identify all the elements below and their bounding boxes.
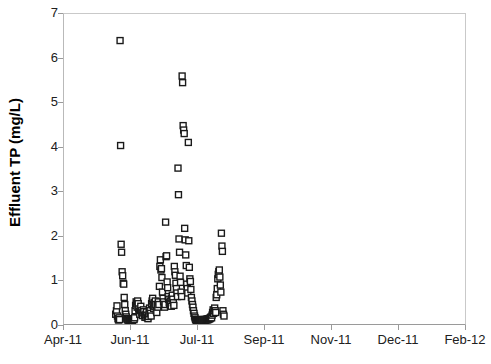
y-axis-tick-label: 0 [38, 318, 58, 331]
plot-area [63, 13, 466, 325]
y-axis-tick-mark [58, 58, 63, 59]
data-point-marker [179, 73, 185, 79]
x-axis-tick-mark [130, 325, 131, 330]
data-point-marker [181, 131, 187, 137]
data-point-marker [182, 225, 188, 231]
x-axis-tick-mark [465, 325, 466, 330]
data-point-marker [121, 294, 127, 300]
data-point-marker [114, 303, 120, 309]
data-point-marker [163, 219, 169, 225]
x-axis-tick-label: Sep-11 [229, 333, 299, 346]
x-axis-tick-label: Feb-12 [430, 333, 491, 346]
x-axis-tick-label: Jul-11 [162, 333, 232, 346]
y-axis-tick-label: 3 [38, 184, 58, 197]
data-point-marker [117, 38, 123, 44]
y-axis-title-label: Effluent TP (mg/L) [6, 98, 23, 227]
data-point-marker [118, 241, 124, 247]
y-axis-tick-mark [58, 147, 63, 148]
data-point-marker [187, 279, 193, 285]
data-point-marker [164, 253, 170, 259]
y-axis-title: Effluent TP (mg/L) [0, 0, 28, 325]
data-point-marker [165, 285, 171, 291]
data-point-marker [221, 313, 227, 319]
data-point-marker [120, 273, 126, 279]
data-point-marker [213, 310, 219, 316]
data-point-marker [216, 267, 222, 273]
y-axis-tick-label: 5 [38, 95, 58, 108]
data-markers-layer [64, 14, 465, 324]
y-axis-tick-mark [58, 13, 63, 14]
data-point-marker [118, 143, 124, 149]
y-axis-tick-label: 4 [38, 140, 58, 153]
y-axis-tick-mark [58, 280, 63, 281]
x-axis-tick-label: Dec-11 [363, 333, 433, 346]
y-axis-tick-labels: 01234567 [33, 0, 58, 364]
data-point-marker [186, 238, 192, 244]
x-axis-tick-mark [398, 325, 399, 330]
data-point-marker [185, 139, 191, 145]
x-axis-tick-label: Apr-11 [28, 333, 98, 346]
data-point-marker [117, 317, 123, 323]
scatter-chart-figure: Effluent TP (mg/L) 01234567 Apr-11Jun-11… [0, 0, 491, 364]
data-point-marker [122, 302, 128, 308]
data-point-marker [121, 281, 127, 287]
x-axis-tick-mark [197, 325, 198, 330]
x-axis-tick-mark [331, 325, 332, 330]
data-point-marker [217, 274, 223, 280]
y-axis-tick-mark [58, 325, 63, 326]
data-point-marker [177, 273, 183, 279]
x-axis-tick-mark [264, 325, 265, 330]
data-point-marker [119, 249, 125, 255]
y-axis-tick-label: 1 [38, 273, 58, 286]
data-point-marker [180, 80, 186, 86]
data-point-marker [186, 264, 192, 270]
x-axis-tick-mark [63, 325, 64, 330]
y-axis-tick-label: 6 [38, 51, 58, 64]
y-axis-tick-label: 2 [38, 229, 58, 242]
y-axis-tick-mark [58, 102, 63, 103]
data-point-marker [175, 165, 181, 171]
data-point-marker [158, 266, 164, 272]
y-axis-tick-mark [58, 236, 63, 237]
y-axis-tick-mark [58, 191, 63, 192]
data-point-marker [178, 279, 184, 285]
y-axis-tick-label: 7 [38, 6, 58, 19]
data-point-marker [183, 252, 189, 258]
data-point-marker [218, 230, 224, 236]
data-point-marker [217, 282, 223, 288]
data-point-marker [219, 248, 225, 254]
data-point-marker [218, 289, 224, 295]
data-point-marker [156, 283, 162, 289]
data-point-marker [175, 192, 181, 198]
data-point-marker [179, 294, 185, 300]
x-axis-tick-label: Nov-11 [296, 333, 366, 346]
x-axis-tick-label: Jun-11 [95, 333, 165, 346]
data-point-marker [171, 302, 177, 308]
data-point-marker [176, 236, 182, 242]
data-point-marker [177, 249, 183, 255]
data-point-marker [188, 286, 194, 292]
